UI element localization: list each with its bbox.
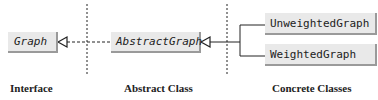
node-label: Graph (14, 35, 47, 48)
hollow-arrowhead-icon (201, 37, 210, 47)
node-unweighted-graph: UnweightedGraph (265, 13, 377, 35)
section-label-concrete: Concrete Classes (272, 82, 352, 94)
node-label: UnweightedGraph (270, 17, 369, 30)
node-graph-interface: Graph (8, 32, 58, 53)
section-label-interface: Interface (10, 82, 53, 94)
node-label: WeightedGraph (270, 48, 356, 61)
node-abstract-graph: AbstractGraph (111, 32, 201, 53)
node-weighted-graph: WeightedGraph (265, 44, 377, 66)
section-label-abstract: Abstract Class (124, 82, 193, 94)
hollow-arrowhead-icon (58, 37, 67, 47)
node-label: AbstractGraph (116, 35, 202, 48)
